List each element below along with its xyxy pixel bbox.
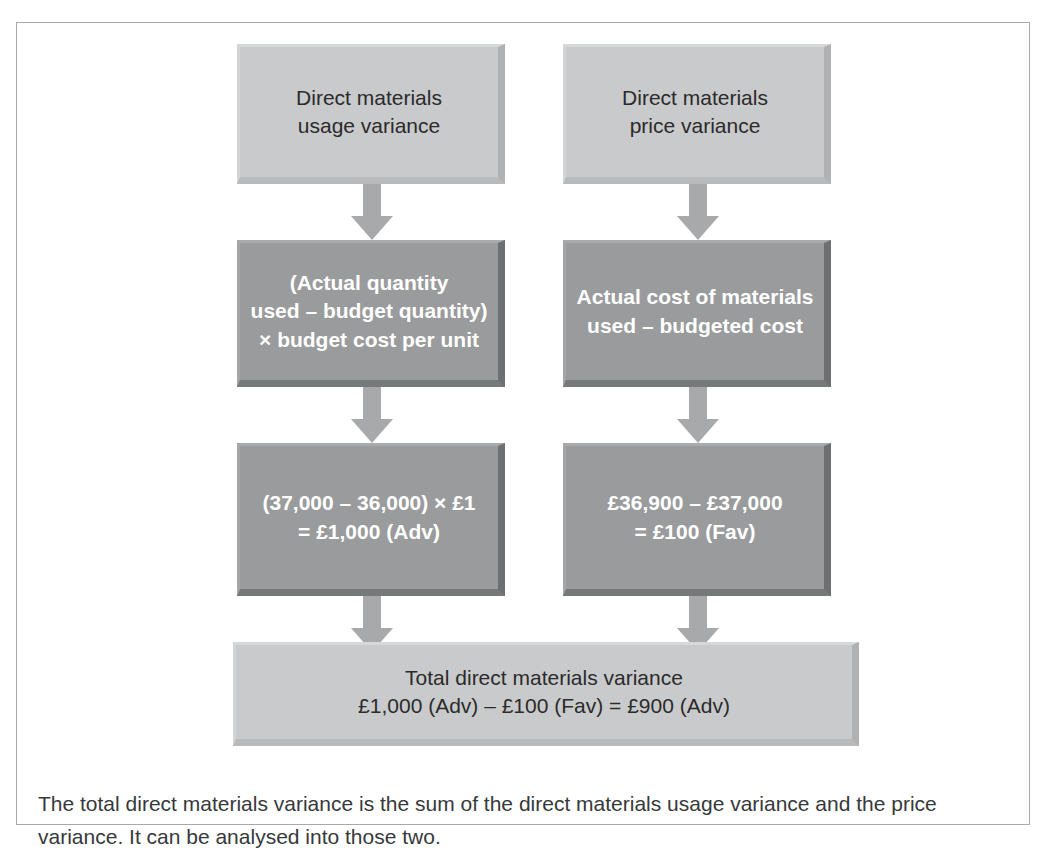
figure-caption: The total direct materials variance is t… bbox=[38, 788, 998, 852]
node-usage-calculation: (37,000 – 36,000) × £1 = £1,000 (Adv) bbox=[237, 443, 505, 596]
variance-flow-diagram: Direct materials usage variance Direct m… bbox=[17, 23, 1031, 826]
node-price-calculation-label: £36,900 – £37,000 = £100 (Fav) bbox=[599, 489, 790, 546]
node-usage-variance: Direct materials usage variance bbox=[237, 44, 505, 184]
figure-frame: Direct materials usage variance Direct m… bbox=[16, 22, 1030, 825]
arrow-down-icon-left-2-3 bbox=[344, 387, 400, 443]
node-total-variance-label: Total direct materials variance £1,000 (… bbox=[350, 664, 738, 721]
node-usage-calculation-label: (37,000 – 36,000) × £1 = £1,000 (Adv) bbox=[254, 489, 483, 546]
node-usage-formula: (Actual quantity used – budget quantity)… bbox=[237, 240, 505, 387]
arrow-down-icon-right-2-3 bbox=[670, 387, 726, 443]
node-price-formula: Actual cost of materials used – budgeted… bbox=[563, 240, 831, 387]
node-price-variance: Direct materials price variance bbox=[563, 44, 831, 184]
node-price-variance-label: Direct materials price variance bbox=[614, 84, 776, 141]
node-usage-formula-label: (Actual quantity used – budget quantity)… bbox=[243, 269, 496, 354]
arrow-down-icon-right-1-2 bbox=[670, 184, 726, 240]
node-price-calculation: £36,900 – £37,000 = £100 (Fav) bbox=[563, 443, 831, 596]
node-usage-variance-label: Direct materials usage variance bbox=[288, 84, 450, 141]
node-total-variance: Total direct materials variance £1,000 (… bbox=[233, 642, 859, 746]
arrow-down-icon-left-1-2 bbox=[344, 184, 400, 240]
node-price-formula-label: Actual cost of materials used – budgeted… bbox=[569, 283, 822, 340]
